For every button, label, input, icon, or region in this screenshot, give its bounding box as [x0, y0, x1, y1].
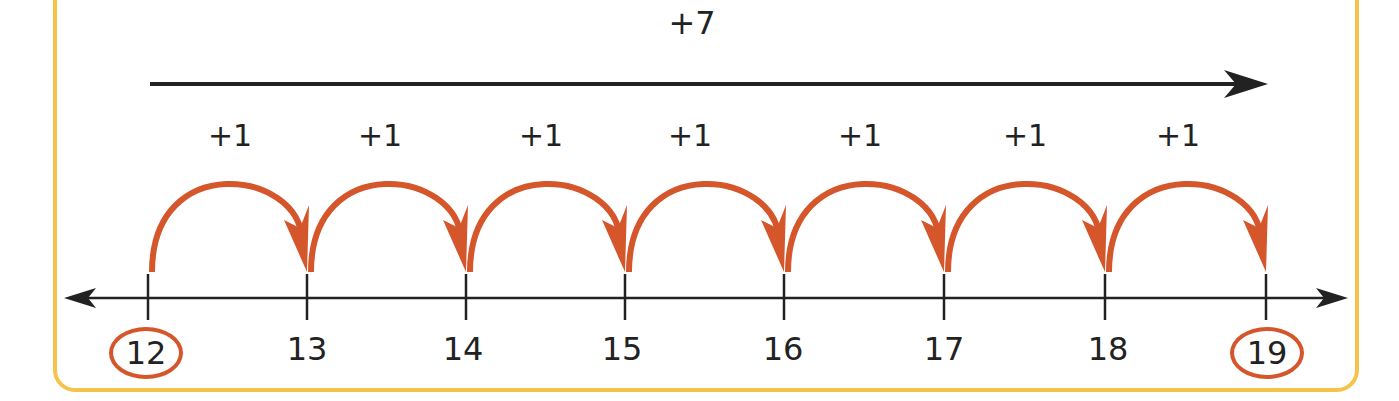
number-line	[64, 274, 1348, 320]
hop-label: +1	[820, 118, 900, 153]
hop-label: +1	[501, 118, 581, 153]
hop-label: +1	[1138, 118, 1218, 153]
hop-label: +1	[190, 118, 270, 153]
hop-label: +1	[650, 118, 730, 153]
tick-label: 15	[582, 330, 662, 368]
tick-label: 13	[267, 330, 347, 368]
number-line-diagram	[0, 0, 1399, 401]
hop-arrowheads	[284, 205, 1268, 272]
total-jump-arrow	[150, 70, 1268, 98]
tick-label: 14	[423, 330, 503, 368]
hop-label: +1	[985, 118, 1065, 153]
tick-label: 16	[743, 330, 823, 368]
total-jump-label: +7	[668, 4, 715, 42]
tick-label-end: 19	[1230, 327, 1304, 379]
tick-label: 18	[1068, 330, 1148, 368]
tick-label: 17	[904, 330, 984, 368]
hop-label: +1	[340, 118, 420, 153]
tick-label-start: 12	[109, 327, 183, 379]
